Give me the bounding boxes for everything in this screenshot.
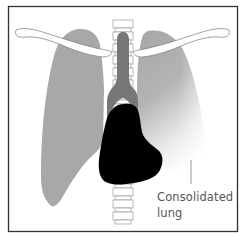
label-line-2: lung	[157, 205, 233, 221]
label-line-1: Consolidated	[157, 189, 233, 205]
consolidated-lung-diagram: Consolidated lung	[0, 0, 244, 237]
consolidated-lung-label: Consolidated lung	[157, 189, 233, 221]
